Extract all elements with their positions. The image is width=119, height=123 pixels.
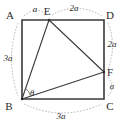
vertex-dot-e (48, 19, 50, 21)
dimension-label-bc: 3a (56, 111, 67, 121)
vertex-label-f: F (107, 66, 113, 78)
angle-label-theta: θ (30, 88, 34, 98)
dimension-label-ae: a (33, 4, 38, 14)
geometry-figure: A B C D E F a 2a 2a a 3a 3a θ (0, 0, 119, 123)
rectangle-abcd (22, 20, 104, 99)
segment-ef (49, 20, 104, 72)
dimension-label-ed: 2a (70, 3, 80, 13)
segment-be (22, 20, 49, 99)
dimension-label-df: 2a (108, 39, 118, 49)
vertex-label-e: E (44, 5, 51, 17)
vertex-label-a: A (6, 9, 14, 21)
dimension-label-ab: 3a (3, 53, 14, 63)
vertex-dot-f (103, 71, 105, 73)
vertex-label-d: D (106, 9, 114, 21)
segment-bf (22, 72, 104, 99)
vertex-label-b: B (5, 100, 12, 112)
geometry-canvas: A B C D E F a 2a 2a a 3a 3a θ (0, 0, 119, 123)
dimension-label-fc: a (110, 81, 115, 91)
vertex-label-c: C (106, 100, 113, 112)
vertex-dot-b (21, 98, 23, 100)
